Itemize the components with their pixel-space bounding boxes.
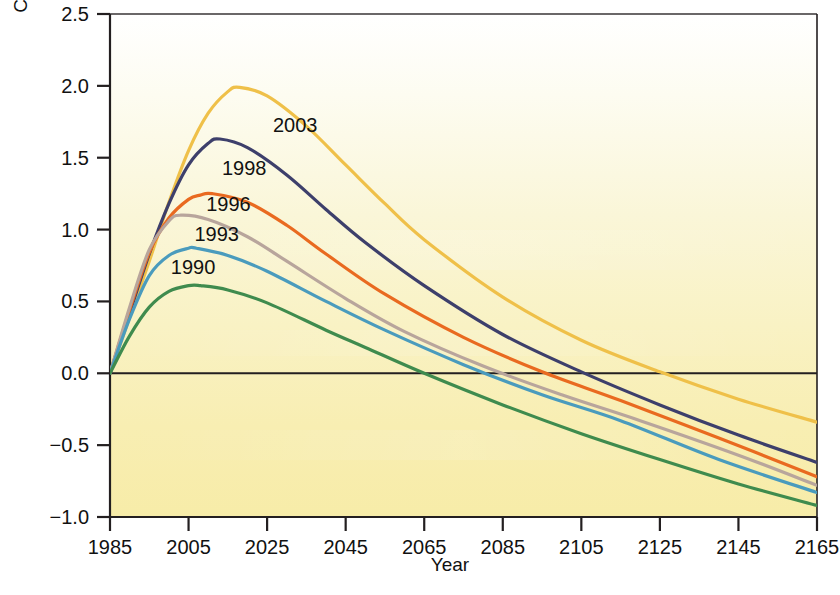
x-tick-label-8: 2145 bbox=[693, 537, 783, 557]
y-tick-label-0: 2.5 bbox=[17, 4, 89, 24]
series-label-2003: 2003 bbox=[273, 115, 318, 135]
y-tick-label-7: −1.0 bbox=[17, 507, 89, 527]
chart-figure: Concentration (parts per million) Year bbox=[0, 0, 840, 595]
x-tick-label-5: 2085 bbox=[458, 537, 548, 557]
series-label-1998: 1998 bbox=[222, 158, 267, 178]
x-tick-label-0: 1985 bbox=[65, 537, 155, 557]
y-tick-label-2: 1.5 bbox=[17, 148, 89, 168]
plot-svg bbox=[0, 0, 840, 595]
y-tick-label-3: 1.0 bbox=[17, 220, 89, 240]
series-label-1996: 1996 bbox=[206, 194, 251, 214]
series-label-1990: 1990 bbox=[171, 257, 216, 277]
x-tick-label-7: 2125 bbox=[615, 537, 705, 557]
y-tick-label-6: −0.5 bbox=[17, 435, 89, 455]
y-tick-label-4: 0.5 bbox=[17, 291, 89, 311]
x-tick-label-9: 2165 bbox=[772, 537, 840, 557]
series-label-1993: 1993 bbox=[194, 224, 239, 244]
x-tick-label-1: 2005 bbox=[144, 537, 234, 557]
y-tick-label-5: 0.0 bbox=[17, 363, 89, 383]
y-tick-label-1: 2.0 bbox=[17, 76, 89, 96]
x-tick-label-4: 2065 bbox=[379, 537, 469, 557]
x-tick-label-6: 2105 bbox=[536, 537, 626, 557]
plot-background bbox=[110, 14, 817, 517]
x-tick-label-3: 2045 bbox=[301, 537, 391, 557]
x-tick-label-2: 2025 bbox=[222, 537, 312, 557]
